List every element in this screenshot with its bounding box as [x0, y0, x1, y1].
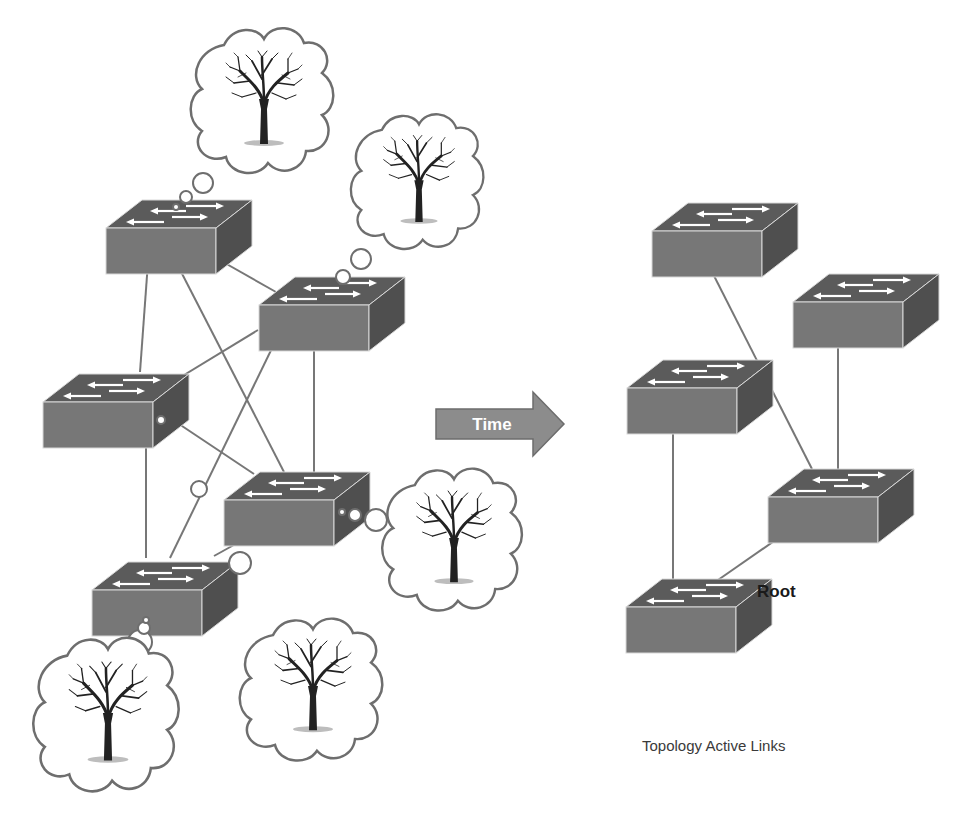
spanning-tree-diagram: Time Root Topology Active Links [0, 0, 954, 817]
switch-R1 [652, 203, 798, 277]
root-label: Root [757, 582, 796, 601]
thought-cloud-5 [240, 619, 383, 761]
switch-R4 [768, 469, 914, 543]
thought-cloud-1 [191, 28, 334, 173]
link-L1-L3 [140, 262, 148, 372]
thought-cloud-2 [351, 114, 484, 249]
caption: Topology Active Links [642, 737, 785, 754]
switch-R5-root [626, 579, 772, 653]
thought-cloud-3 [382, 469, 522, 611]
time-arrow: Time [436, 392, 564, 456]
switch-R3 [627, 360, 773, 434]
link-L1-L4 [176, 262, 284, 472]
switch-L4 [224, 472, 370, 546]
time-label: Time [472, 415, 511, 434]
switch-R2 [793, 274, 939, 348]
switch-L5 [92, 562, 238, 636]
switch-L2 [259, 277, 405, 351]
right-topology: Root [626, 203, 939, 653]
switch-L1 [106, 200, 252, 274]
thought-cloud-4 [33, 638, 178, 792]
switch-L3 [43, 374, 189, 448]
